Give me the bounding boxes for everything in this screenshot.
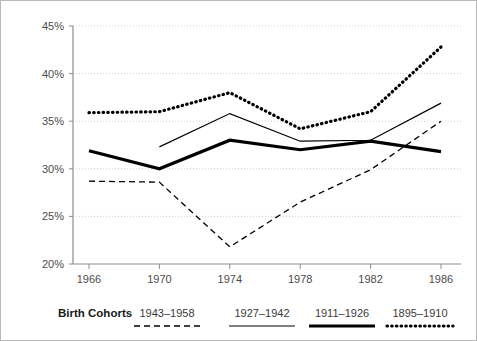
series-line-1943-1958 (89, 121, 441, 247)
legend-label-1943-1958: 1943–1958 (139, 307, 194, 319)
x-axis-tick-label: 1966 (77, 273, 101, 285)
legend-label-1927-1942: 1927–1942 (234, 307, 289, 319)
legend-title: Birth Cohorts (58, 307, 132, 319)
y-axis-tick-label: 45% (42, 20, 64, 32)
x-axis-tick-label: 1974 (218, 273, 242, 285)
legend-label-1911-1926: 1911–1926 (315, 307, 369, 319)
chart-figure: 20%25%30%35%40%45% 196619701974197819821… (0, 0, 477, 341)
series-line-1927-1942 (159, 103, 441, 147)
line-chart: 20%25%30%35%40%45% 196619701974197819821… (1, 1, 477, 341)
y-axis-tick-label: 30% (42, 163, 64, 175)
legend: Birth Cohorts 1943–19581927–19421911–192… (58, 307, 453, 326)
y-axis-tick-label: 20% (42, 258, 64, 270)
x-axis-tick-label: 1982 (358, 273, 382, 285)
y-axis-tick-label: 35% (42, 115, 64, 127)
series-line-1911-1926 (89, 140, 441, 169)
y-axis-tick-labels: 20%25%30%35%40%45% (42, 20, 64, 270)
x-axis-tick-labels: 196619701974197819821986 (77, 264, 453, 285)
x-axis-tick-label: 1986 (429, 273, 453, 285)
y-axis-tick-label: 25% (42, 210, 64, 222)
legend-label-1895-1910: 1895–1910 (392, 307, 447, 319)
x-axis-tick-label: 1978 (288, 273, 312, 285)
y-axis-tick-label: 40% (42, 68, 64, 80)
series-line-1895-1910 (89, 47, 441, 129)
x-axis-tick-label: 1970 (147, 273, 171, 285)
